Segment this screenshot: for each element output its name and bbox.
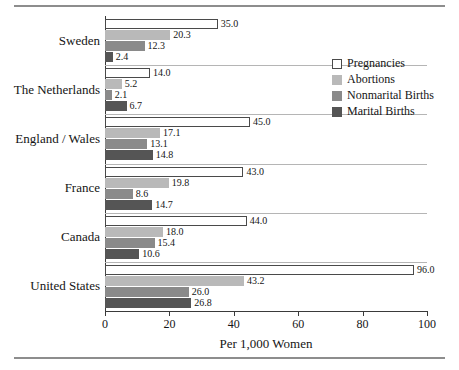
bar[interactable] [105,249,139,259]
bar-row[interactable]: 17.1 [105,128,427,138]
legend-item[interactable]: Pregnancies [332,56,454,71]
bar[interactable] [105,167,243,177]
bar[interactable] [105,238,155,248]
bar-value-label: 10.6 [139,249,160,259]
legend-swatch-icon [332,91,342,101]
axis-tick-label: 60 [292,318,304,331]
bar[interactable] [105,101,127,111]
bar[interactable] [105,117,250,127]
legend-item[interactable]: Abortions [332,72,454,87]
bar-value-label: 13.1 [147,139,168,149]
legend-item[interactable]: Nonmarital Births [332,88,454,103]
category-label: United States [30,279,100,293]
bar-value-label: 96.0 [414,265,435,275]
bar-row[interactable]: 43.2 [105,276,427,286]
bar[interactable] [105,150,153,160]
bar[interactable] [105,19,218,29]
bar-value-label: 17.1 [160,128,181,138]
bar-value-label: 12.3 [145,41,166,51]
axis-tick [169,311,170,316]
category-label: Sweden [59,34,100,48]
bar-value-label: 6.7 [127,101,143,111]
legend-swatch-icon [332,107,342,117]
bar-chart: 35.020.312.32.414.05.22.16.745.017.113.1… [0,12,459,352]
bar-row[interactable]: 10.6 [105,249,427,259]
bar-row[interactable]: 8.6 [105,189,427,199]
bar-value-label: 2.4 [113,52,129,62]
bar-row[interactable]: 20.3 [105,30,427,40]
axis-tick-label: 40 [228,318,240,331]
bar-value-label: 20.3 [170,30,191,40]
bar-row[interactable]: 35.0 [105,19,427,29]
bar-value-label: 45.0 [250,117,271,127]
bar[interactable] [105,68,150,78]
bar[interactable] [105,178,169,188]
bar[interactable] [105,90,112,100]
group-separator [105,262,427,263]
axis-tick-label: 20 [163,318,175,331]
bar-value-label: 14.7 [152,200,173,210]
bar-value-label: 18.0 [163,227,184,237]
bar-row[interactable]: 15.4 [105,238,427,248]
bar-row[interactable]: 44.0 [105,216,427,226]
bar-value-label: 2.1 [112,90,128,100]
category-label: The Netherlands [14,83,100,97]
bar-row[interactable]: 18.0 [105,227,427,237]
bar[interactable] [105,41,145,51]
bar[interactable] [105,139,147,149]
bar-value-label: 26.0 [189,287,210,297]
bar[interactable] [105,216,247,226]
category-label: France [65,181,100,195]
axis-tick [363,311,364,316]
bar[interactable] [105,287,189,297]
legend-swatch-icon [332,59,342,69]
legend-item[interactable]: Marital Births [332,104,454,119]
category-label: England / Wales [15,132,100,146]
bar-row[interactable]: 26.0 [105,287,427,297]
bar[interactable] [105,189,133,199]
axis-tick [105,311,106,316]
bar-value-label: 44.0 [247,216,268,226]
bar-row[interactable]: 19.8 [105,178,427,188]
legend-label: Nonmarital Births [347,89,434,102]
axis-tick [298,311,299,316]
bar-row[interactable]: 96.0 [105,265,427,275]
axis-tick [427,311,428,316]
bar-row[interactable]: 12.3 [105,41,427,51]
legend-label: Pregnancies [347,57,405,70]
bar-value-label: 15.4 [155,238,176,248]
bar[interactable] [105,265,414,275]
bar[interactable] [105,200,152,210]
bar-row[interactable]: 43.0 [105,167,427,177]
bar[interactable] [105,276,244,286]
bar-value-label: 43.2 [244,276,265,286]
bar-row[interactable]: 26.8 [105,298,427,308]
chart-legend: PregnanciesAbortionsNonmarital BirthsMar… [332,56,454,120]
bar[interactable] [105,298,191,308]
bottom-divider-rule [14,357,445,359]
bar-value-label: 8.6 [133,189,149,199]
bar-row[interactable]: 14.7 [105,200,427,210]
category-label: Canada [61,230,100,244]
axis-tick-label: 100 [418,318,436,331]
bar[interactable] [105,227,163,237]
bar-value-label: 19.8 [169,178,190,188]
axis-tick-label: 80 [357,318,369,331]
axis-tick-label: 0 [102,318,108,331]
bar[interactable] [105,79,122,89]
top-divider-rule [14,5,445,7]
bar-row[interactable]: 14.8 [105,150,427,160]
legend-label: Marital Births [347,105,415,118]
bar-value-label: 14.8 [153,150,174,160]
value-axis-line [105,311,427,312]
bar[interactable] [105,52,113,62]
legend-swatch-icon [332,75,342,85]
bar-row[interactable]: 13.1 [105,139,427,149]
bar-value-label: 14.0 [150,68,171,78]
bar[interactable] [105,128,160,138]
bar-value-label: 26.8 [191,298,212,308]
axis-tick [234,311,235,316]
bar[interactable] [105,30,170,40]
bar-value-label: 43.0 [243,167,264,177]
chart-page: { "chart_data": { "type": "bar", "orient… [0,0,459,370]
